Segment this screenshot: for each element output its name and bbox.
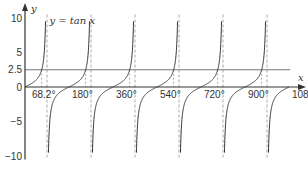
curve-annotation: y = tan x: [48, 15, 95, 26]
x-axis-label: x: [298, 72, 304, 83]
tan-chart: yxy = tan x1052.50−5−1068.2°180°360°540°…: [0, 0, 308, 171]
y-tick-label: 5: [16, 47, 22, 58]
y-axis-arrow-icon: [22, 3, 28, 11]
x-tick-label: 900°: [248, 89, 269, 100]
tan-curve-branch: [25, 21, 46, 87]
x-tick-label: 1080°: [292, 89, 308, 100]
y-tick-label: 0: [16, 82, 22, 93]
y-tick-label: −5: [11, 116, 23, 127]
x-tick-label: 540°: [160, 89, 181, 100]
y-tick-label: 2.5: [8, 64, 22, 75]
y-axis-label: y: [30, 3, 37, 14]
tan-curve-branch: [268, 87, 289, 153]
y-tick-label: 10: [11, 13, 23, 24]
x-tick-label: 720°: [204, 89, 225, 100]
x-tick-label: 68.2°: [32, 89, 55, 100]
x-tick-label: 180°: [72, 89, 93, 100]
y-tick-label: −10: [5, 151, 22, 162]
x-tick-label: 360°: [116, 89, 137, 100]
